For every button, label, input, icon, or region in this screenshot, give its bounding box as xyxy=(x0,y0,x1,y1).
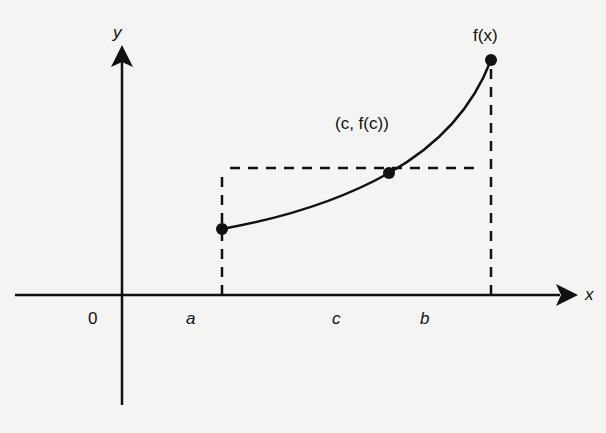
curve-label: f(x) xyxy=(473,27,498,44)
function-curve xyxy=(222,60,491,229)
tick-label-a: a xyxy=(186,310,195,327)
diagram-canvas xyxy=(0,0,606,433)
point-b-fb xyxy=(485,54,497,66)
origin-label: 0 xyxy=(88,310,97,327)
point-c-fc xyxy=(383,167,395,179)
point-a xyxy=(216,223,228,235)
tick-label-b: b xyxy=(420,310,429,327)
x-axis-label: x xyxy=(585,286,594,303)
y-axis-label: y xyxy=(113,24,122,41)
mean-point-label: (c, f(c)) xyxy=(335,115,389,132)
tick-label-c: c xyxy=(332,310,341,327)
